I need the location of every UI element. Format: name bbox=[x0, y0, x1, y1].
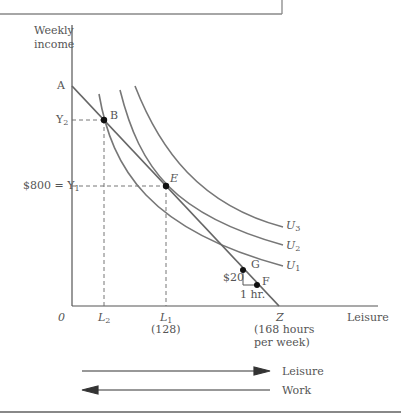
label-twenty-dollars: $20 bbox=[223, 271, 244, 284]
label-u1: U1 bbox=[286, 259, 300, 275]
label-origin: 0 bbox=[58, 311, 65, 324]
label-b: B bbox=[110, 109, 118, 122]
label-l1-value: (128) bbox=[151, 323, 181, 336]
label-l2: L2 bbox=[98, 311, 110, 327]
axes bbox=[72, 25, 378, 306]
u3-text: U bbox=[286, 219, 295, 232]
label-one-hour: 1 hr. bbox=[240, 288, 265, 301]
label-a: A bbox=[57, 79, 65, 92]
y2-subscript: 2 bbox=[63, 118, 68, 127]
label-f: F bbox=[262, 275, 270, 288]
point-b bbox=[101, 117, 107, 123]
u2-text: U bbox=[286, 239, 295, 252]
l2-subscript: 2 bbox=[105, 316, 110, 325]
u2-subscript: 2 bbox=[295, 244, 300, 253]
u3-subscript: 3 bbox=[295, 224, 300, 233]
label-z-note-2: per week) bbox=[254, 336, 306, 349]
diagram-graphics bbox=[0, 0, 401, 420]
curve-u2 bbox=[120, 90, 283, 245]
label-y2: Y2 bbox=[56, 113, 68, 129]
y-axis-title-line2: income bbox=[34, 38, 74, 51]
direction-arrows bbox=[82, 367, 270, 394]
top-box-frame bbox=[0, 0, 282, 14]
label-g: G bbox=[251, 258, 260, 271]
slope-triangle bbox=[243, 270, 257, 285]
arrow-left-head bbox=[82, 386, 98, 394]
dashed-guides bbox=[72, 120, 166, 306]
indifference-curves bbox=[99, 86, 283, 266]
x-axis-title: Leisure bbox=[347, 311, 389, 324]
arrow-label-leisure: Leisure bbox=[282, 365, 324, 378]
y1-text: $800 = Y bbox=[23, 179, 74, 192]
y-axis-title-line1: Weekly bbox=[34, 24, 74, 37]
label-e: E bbox=[170, 172, 178, 185]
u1-text: U bbox=[286, 259, 295, 272]
point-e bbox=[163, 183, 169, 189]
labor-leisure-diagram: Weekly income A Y2 $800 = Y1 B E G F $20… bbox=[0, 0, 401, 420]
label-u3: U3 bbox=[286, 219, 300, 235]
u1-subscript: 1 bbox=[295, 264, 300, 273]
curve-u1 bbox=[99, 94, 283, 266]
arrow-right-head bbox=[254, 367, 270, 375]
label-y1: $800 = Y1 bbox=[23, 179, 80, 195]
y1-subscript: 1 bbox=[74, 184, 79, 193]
label-z-note-1: (168 hours bbox=[254, 323, 306, 336]
arrow-label-work: Work bbox=[282, 384, 311, 397]
label-u2: U2 bbox=[286, 239, 300, 255]
